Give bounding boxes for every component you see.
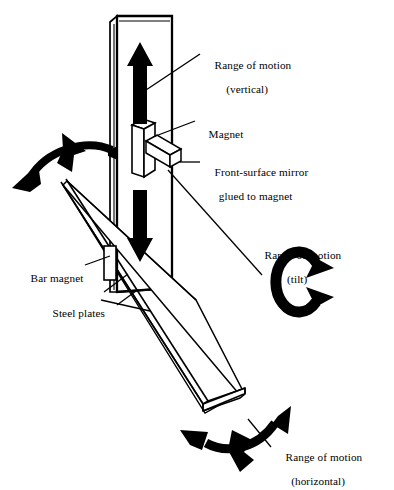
label-range-horiz-line2: (horizontal): [274, 476, 362, 488]
label-bar-magnet: Bar magnet: [19, 261, 83, 297]
label-mirror-line2: glued to magnet: [203, 191, 308, 203]
label-bar-magnet-text: Bar magnet: [31, 272, 84, 284]
magnet-front-face: [132, 125, 144, 177]
label-range-horiz-line1: Range of motion: [286, 451, 363, 463]
label-range-of-motion-vertical: Range of motion (vertical): [203, 48, 291, 119]
label-mirror-line1: Front-surface mirror: [215, 166, 309, 178]
figure-root: Range of motion (vertical) Magnet Front-…: [0, 0, 394, 490]
horizontal-arrowhead-left: [180, 430, 208, 450]
label-range-of-motion-horizontal: Range of motion (horizontal): [274, 440, 362, 490]
label-range-tilt-line2: (tilt): [253, 274, 341, 286]
bar-magnet-face: [104, 246, 116, 280]
label-range-tilt-line1: Range of motion: [265, 249, 342, 261]
label-steel-plates: Steel plates: [41, 296, 105, 332]
label-magnet: Magnet: [197, 117, 243, 153]
leader-steel-plates: [101, 300, 150, 311]
steel-plate-far-end: [203, 388, 245, 411]
label-range-vertical-line1: Range of motion: [215, 59, 292, 71]
label-front-surface-mirror: Front-surface mirror glued to magnet: [203, 155, 308, 226]
label-range-of-motion-tilt: Range of motion (tilt): [253, 238, 341, 309]
horizontal-arrowhead-down: [228, 430, 254, 472]
label-magnet-text: Magnet: [209, 128, 244, 140]
bar-magnet-block: [104, 246, 116, 280]
upper-left-arrowhead-left: [12, 164, 41, 192]
label-steel-plates-text: Steel plates: [53, 307, 105, 319]
label-range-vertical-line2: (vertical): [203, 84, 291, 96]
